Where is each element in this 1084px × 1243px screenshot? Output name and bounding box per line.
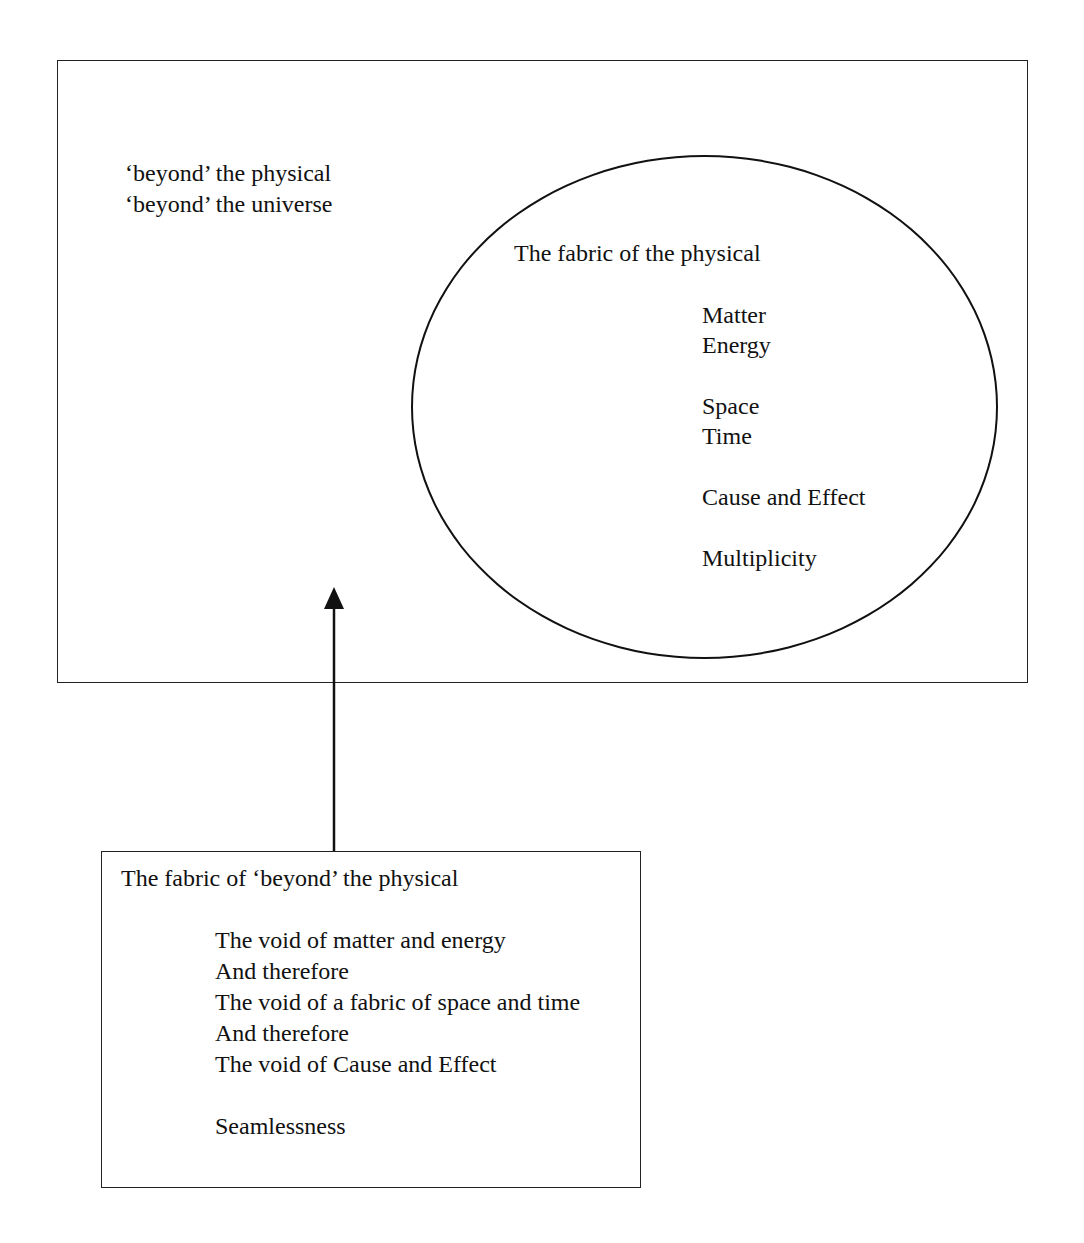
spacer: [702, 512, 866, 543]
spacer: [215, 1080, 580, 1111]
beyond-item-void-space-time: The void of a fabric of space and time: [215, 987, 580, 1018]
spacer: [702, 451, 866, 482]
outer-region-labels: ‘beyond’ the physical ‘beyond’ the unive…: [125, 158, 332, 220]
physical-item-space: Space: [702, 391, 866, 421]
beyond-box-title: The fabric of ‘beyond’ the physical: [121, 863, 458, 893]
spacer: [702, 360, 866, 391]
beyond-universe-label: ‘beyond’ the universe: [125, 189, 332, 220]
beyond-item-and-therefore-2: And therefore: [215, 1018, 580, 1049]
physical-item-time: Time: [702, 421, 866, 451]
physical-item-cause-effect: Cause and Effect: [702, 482, 866, 512]
beyond-box-items: The void of matter and energy And theref…: [215, 925, 580, 1142]
physical-ellipse-title: The fabric of the physical: [514, 238, 761, 268]
physical-item-energy: Energy: [702, 330, 866, 360]
beyond-physical-label: ‘beyond’ the physical: [125, 158, 332, 189]
beyond-item-void-cause-effect: The void of Cause and Effect: [215, 1049, 580, 1080]
beyond-item-seamlessness: Seamlessness: [215, 1111, 580, 1142]
physical-ellipse-items: Matter Energy Space Time Cause and Effec…: [702, 300, 866, 573]
physical-item-multiplicity: Multiplicity: [702, 543, 866, 573]
physical-item-matter: Matter: [702, 300, 866, 330]
beyond-item-and-therefore-1: And therefore: [215, 956, 580, 987]
beyond-item-void-matter-energy: The void of matter and energy: [215, 925, 580, 956]
